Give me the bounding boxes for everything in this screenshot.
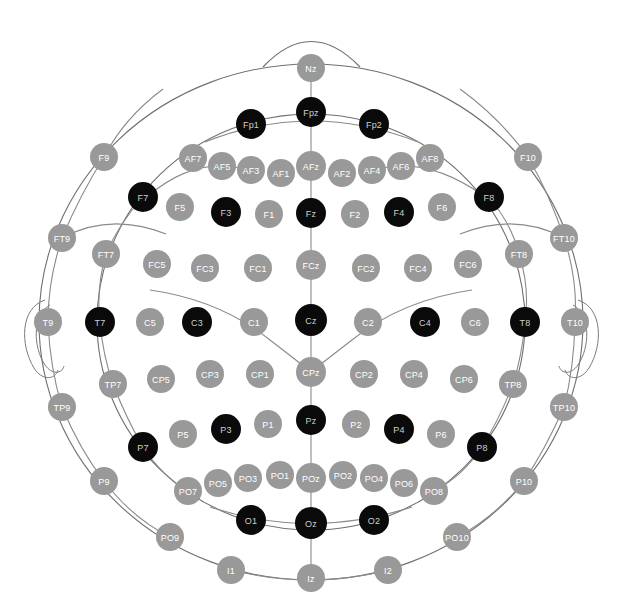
electrode-ft10[interactable]: FT10 [550,224,578,252]
electrode-f2[interactable]: F2 [341,200,369,228]
electrode-cp6[interactable]: CP6 [450,365,478,393]
electrode-p2[interactable]: P2 [342,410,370,438]
electrode-af1[interactable]: AF1 [267,159,295,187]
electrode-f6[interactable]: F6 [428,193,456,221]
electrode-tp10[interactable]: TP10 [550,393,578,421]
electrode-cp5[interactable]: CP5 [147,365,175,393]
electrode-p4[interactable]: P4 [384,414,414,444]
electrode-poz[interactable]: POz [296,463,326,493]
electrode-cp1[interactable]: CP1 [246,360,274,388]
electrode-label: FC3 [196,264,214,274]
electrode-nz[interactable]: Nz [297,54,325,82]
electrode-c6[interactable]: C6 [461,308,489,336]
electrode-c5[interactable]: C5 [136,308,164,336]
electrode-f5[interactable]: F5 [166,193,194,221]
electrode-label: C6 [469,318,481,328]
electrode-ft9[interactable]: FT9 [48,224,76,252]
electrode-po7[interactable]: PO7 [174,477,202,505]
electrode-fz[interactable]: Fz [296,198,326,228]
electrode-po5[interactable]: PO5 [204,469,232,497]
electrode-po9[interactable]: PO9 [156,523,184,551]
electrode-po1[interactable]: PO1 [266,461,294,489]
electrode-label: PO5 [209,479,228,489]
electrode-oz[interactable]: Oz [295,507,327,539]
electrode-tp8[interactable]: TP8 [499,370,527,398]
electrode-po2[interactable]: PO2 [329,461,357,489]
electrode-f10[interactable]: F10 [514,143,542,171]
electrode-po10[interactable]: PO10 [443,523,471,551]
electrode-p5[interactable]: P5 [169,420,197,448]
electrode-af2[interactable]: AF2 [328,159,356,187]
electrode-f9[interactable]: F9 [90,143,118,171]
electrode-af7[interactable]: AF7 [179,144,207,172]
electrode-po3[interactable]: PO3 [234,464,262,492]
electrode-po8[interactable]: PO8 [420,477,448,505]
electrode-i1[interactable]: I1 [217,556,245,584]
electrode-t7[interactable]: T7 [85,307,115,337]
electrode-label: PO2 [334,471,353,481]
electrode-ft7[interactable]: FT7 [92,240,120,268]
electrode-fc4[interactable]: FC4 [404,254,432,282]
electrode-cz[interactable]: Cz [295,304,327,336]
electrode-pz[interactable]: Pz [296,405,326,435]
electrode-label: FC1 [249,264,267,274]
electrode-fc3[interactable]: FC3 [191,254,219,282]
electrode-fc2[interactable]: FC2 [352,254,380,282]
electrode-p7[interactable]: P7 [128,432,158,462]
electrode-cpz[interactable]: CPz [296,357,326,387]
electrode-po6[interactable]: PO6 [390,469,418,497]
electrode-af3[interactable]: AF3 [237,156,265,184]
electrode-p1[interactable]: P1 [254,410,282,438]
electrode-tp7[interactable]: TP7 [99,370,127,398]
electrode-label: AF1 [272,169,289,179]
electrode-fpz[interactable]: Fpz [296,97,326,127]
electrode-cp4[interactable]: CP4 [400,360,428,388]
electrode-o1[interactable]: O1 [236,505,266,535]
electrode-o2[interactable]: O2 [359,505,389,535]
electrode-fcz[interactable]: FCz [296,250,326,280]
electrode-label: I2 [384,566,392,576]
electrode-i2[interactable]: I2 [374,556,402,584]
electrode-af6[interactable]: AF6 [387,152,415,180]
electrode-f8[interactable]: F8 [474,182,504,212]
electrode-label: T9 [43,318,54,328]
electrode-t9[interactable]: T9 [34,308,62,336]
electrode-fp2[interactable]: Fp2 [359,109,389,139]
electrode-cp3[interactable]: CP3 [196,360,224,388]
electrode-label: TP10 [553,403,575,413]
electrode-label: C3 [191,318,203,328]
electrode-p8[interactable]: P8 [467,432,497,462]
electrode-af4[interactable]: AF4 [358,156,386,184]
electrode-afz[interactable]: AFz [296,151,326,181]
electrode-c3[interactable]: C3 [182,307,212,337]
electrode-t8[interactable]: T8 [510,307,540,337]
electrode-fc1[interactable]: FC1 [244,254,272,282]
electrode-f4[interactable]: F4 [384,197,414,227]
electrode-label: AF6 [392,162,409,172]
electrode-ft8[interactable]: FT8 [505,240,533,268]
electrode-po4[interactable]: PO4 [360,464,388,492]
temporal-arc-right [460,224,564,238]
electrode-label: P9 [98,477,109,487]
electrode-iz[interactable]: Iz [297,564,325,592]
electrode-p6[interactable]: P6 [427,420,455,448]
electrode-p3[interactable]: P3 [211,414,241,444]
electrode-fc6[interactable]: FC6 [454,250,482,278]
electrode-fc5[interactable]: FC5 [143,250,171,278]
electrode-cp2[interactable]: CP2 [350,360,378,388]
electrode-c1[interactable]: C1 [240,308,268,336]
electrode-p9[interactable]: P9 [90,467,118,495]
electrode-af5[interactable]: AF5 [208,152,236,180]
electrode-f7[interactable]: F7 [128,182,158,212]
electrode-label: P7 [137,443,148,453]
electrode-f1[interactable]: F1 [255,200,283,228]
electrode-f3[interactable]: F3 [211,197,241,227]
electrode-label: O1 [245,516,257,526]
electrode-af8[interactable]: AF8 [416,144,444,172]
electrode-tp9[interactable]: TP9 [48,393,76,421]
electrode-c4[interactable]: C4 [410,307,440,337]
electrode-c2[interactable]: C2 [354,308,382,336]
electrode-t10[interactable]: T10 [561,308,589,336]
electrode-fp1[interactable]: Fp1 [236,109,266,139]
electrode-p10[interactable]: P10 [510,467,538,495]
